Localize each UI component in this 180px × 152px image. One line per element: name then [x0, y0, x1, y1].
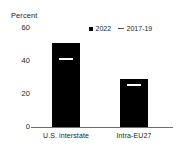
legend-label-2017-19: 2017-19: [127, 24, 153, 33]
legend-square-icon: [89, 27, 93, 31]
bar-intra-eu27-2022[interactable]: [120, 79, 148, 127]
legend-item-2022[interactable]: 2022: [89, 24, 111, 33]
y-tick-label-0: 0: [4, 123, 30, 131]
y-tick-label-40: 40: [4, 57, 30, 65]
x-category-label-us-interstate: U.S. interstate: [30, 131, 102, 140]
legend-item-2017-19[interactable]: 2017-19: [118, 24, 152, 33]
marker-intra-eu27-2017-19: [127, 84, 141, 86]
y-tick-label-20: 20: [4, 90, 30, 98]
y-axis-tick-labels: 60 40 20 0: [4, 0, 30, 152]
chart-legend: 2022 2017-19: [89, 24, 152, 33]
x-category-label-intra-eu27: Intra-EU27: [104, 131, 164, 140]
legend-label-2022: 2022: [96, 24, 112, 33]
bar-chart: Percent 60 40 20 0 U.S. interstate Intra…: [0, 0, 180, 152]
y-tick-mark-0: [31, 127, 34, 128]
x-axis-baseline: [34, 127, 173, 128]
bar-us-interstate-2022[interactable]: [52, 43, 80, 127]
marker-us-interstate-2017-19: [59, 58, 73, 60]
y-tick-label-60: 60: [4, 24, 30, 32]
plot-area: U.S. interstate Intra-EU27: [34, 0, 180, 152]
legend-dash-icon: [118, 28, 124, 30]
